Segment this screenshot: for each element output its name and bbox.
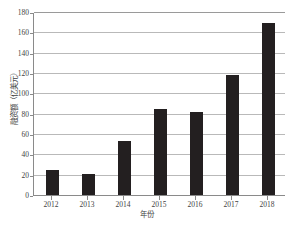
x-axis-tick-label: 2018 xyxy=(247,200,287,209)
gridline xyxy=(34,32,285,33)
gridline xyxy=(34,73,285,74)
x-axis-title: 年份 xyxy=(0,210,293,219)
y-axis-tick-mark xyxy=(30,94,33,95)
y-axis-tick-label: 40 xyxy=(0,151,29,159)
y-axis-title: 融资额（亿美元） xyxy=(10,47,19,147)
bar-chart: 020406080100120140160180 201220132014201… xyxy=(0,0,293,226)
gridline xyxy=(34,53,285,54)
bar xyxy=(262,23,275,195)
y-axis-tick-mark xyxy=(30,54,33,55)
bar xyxy=(226,75,239,195)
y-axis-tick-mark xyxy=(30,74,33,75)
gridline xyxy=(34,12,285,13)
plot-area xyxy=(33,13,285,196)
bar xyxy=(190,112,203,195)
x-axis-tick-label: 2015 xyxy=(139,200,179,209)
bar xyxy=(82,174,95,195)
y-axis-tick-mark xyxy=(30,155,33,156)
gridline xyxy=(34,93,285,94)
bar xyxy=(46,170,59,195)
x-axis-tick-label: 2012 xyxy=(31,200,71,209)
y-axis-tick-mark xyxy=(30,13,33,14)
y-axis-tick-label: 0 xyxy=(0,192,29,200)
y-axis-tick-mark xyxy=(30,196,33,197)
x-axis-tick-label: 2016 xyxy=(175,200,215,209)
y-axis-tick-label: 180 xyxy=(0,9,29,17)
y-axis-tick-mark xyxy=(30,176,33,177)
y-axis-tick-mark xyxy=(30,115,33,116)
x-axis-tick-label: 2017 xyxy=(211,200,251,209)
y-axis-tick-label: 160 xyxy=(0,29,29,37)
y-axis-tick-mark xyxy=(30,135,33,136)
bar xyxy=(154,109,167,195)
x-axis-tick-label: 2014 xyxy=(103,200,143,209)
bar xyxy=(118,141,131,195)
x-axis-tick-label: 2013 xyxy=(67,200,107,209)
y-axis-tick-mark xyxy=(30,33,33,34)
y-axis-tick-label: 20 xyxy=(0,172,29,180)
